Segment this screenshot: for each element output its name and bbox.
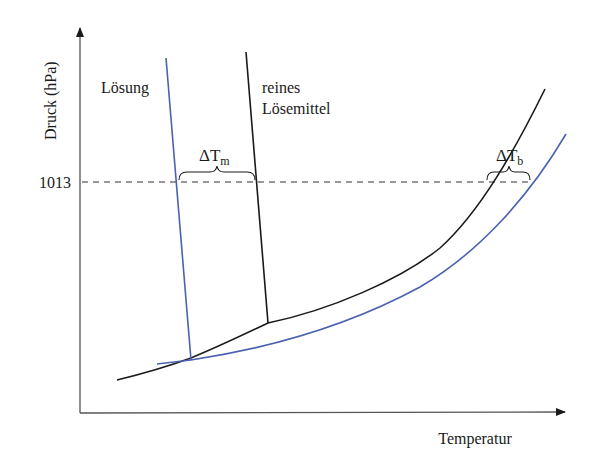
x-axis	[80, 412, 565, 413]
pure-solvent-vapor-pressure-curve	[268, 89, 545, 323]
x-axis-label: Temperatur	[438, 430, 512, 448]
melting-delta-label: ΔTm	[199, 146, 230, 168]
solution-label: Lösung	[101, 79, 149, 97]
boiling-delta-label: ΔTb	[496, 146, 523, 168]
melting-point-depression-brace	[179, 166, 255, 180]
y-axis-label: Druck (hPa)	[42, 61, 60, 140]
pure-solvent-label-line1: reines	[262, 79, 300, 96]
y-tick-1013: 1013	[39, 174, 71, 191]
solution-melting-curve	[166, 58, 191, 360]
pure-solvent-label-line2: Lösemittel	[262, 100, 331, 117]
phase-diagram: Druck (hPa) 1013 Temperatur Lösung reine…	[0, 0, 593, 463]
boiling-point-elevation-brace	[487, 166, 530, 180]
pure-solvent-sublimation-curve	[117, 323, 268, 380]
